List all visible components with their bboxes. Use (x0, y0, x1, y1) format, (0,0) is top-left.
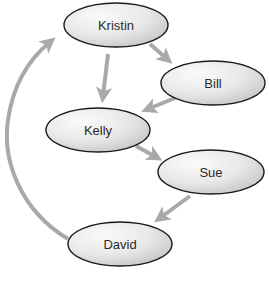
node-bill: Bill (161, 61, 265, 105)
node-david: David (68, 222, 172, 266)
edge-kelly-to-sue (136, 146, 156, 157)
edge-sue-to-david (160, 196, 190, 218)
edge-kristin-to-kelly (103, 54, 108, 96)
node-kristin: Kristin (64, 3, 168, 47)
node-kelly: Kelly (46, 108, 150, 152)
node-label-kristin: Kristin (98, 18, 134, 33)
node-label-kelly: Kelly (84, 123, 113, 138)
edge-kristin-to-bill (150, 44, 167, 59)
node-label-bill: Bill (204, 76, 221, 91)
edge-bill-to-kelly (148, 98, 175, 109)
relationship-diagram: Kristin Bill Kelly Sue David (0, 0, 269, 287)
node-label-david: David (103, 237, 136, 252)
node-sue: Sue (158, 150, 264, 194)
node-label-sue: Sue (199, 165, 222, 180)
